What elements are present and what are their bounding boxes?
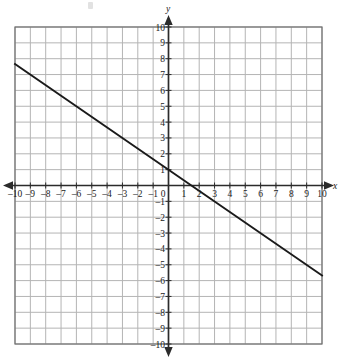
y-axis-label: y [165, 4, 171, 14]
y-tick-label: –4 [155, 244, 166, 254]
x-axis-label: x [332, 181, 338, 191]
scan-artifact [88, 2, 93, 9]
x-tick-label: –9 [25, 189, 36, 199]
x-tick-label: –10 [7, 189, 23, 199]
y-tick-label: 2 [160, 149, 165, 159]
x-tick-label: 10 [317, 189, 327, 199]
y-tick-label: –5 [155, 260, 166, 270]
y-axis-bottom-arrow [164, 347, 172, 357]
y-tick-label: –3 [155, 229, 166, 239]
x-tick-label: 3 [212, 189, 217, 199]
x-tick-label: 8 [289, 189, 294, 199]
coordinate-plane-figure: –10 –9 –8 –7 –6 –5 –4 –3 –2 –1 1 2 3 4 5… [0, 0, 340, 358]
y-tick-label: 6 [160, 86, 165, 96]
x-tick-label: –8 [40, 189, 51, 199]
y-tick-label: 9 [160, 38, 165, 48]
x-tick-label: –7 [55, 189, 66, 199]
y-tick-label: 8 [160, 54, 165, 64]
x-tick-label: –2 [132, 189, 143, 199]
x-tick-label: 5 [243, 189, 248, 199]
y-tick-label: –7 [155, 292, 166, 302]
x-tick-label: –6 [71, 189, 82, 199]
y-tick-label: 10 [156, 23, 166, 33]
x-tick-label: –4 [101, 189, 112, 199]
y-tick-label: –10 [150, 340, 166, 350]
x-tick-label: 7 [274, 189, 279, 199]
x-tick-label: 1 [181, 189, 186, 199]
y-tick-label: –1 [155, 197, 166, 207]
x-tick-label: 4 [228, 189, 233, 199]
x-tick-label: –3 [117, 189, 128, 199]
y-tick-label: –8 [155, 308, 166, 318]
y-tick-label: –9 [155, 324, 166, 334]
x-tick-label: 9 [304, 189, 309, 199]
x-tick-label: 6 [258, 189, 263, 199]
y-tick-label: 7 [160, 70, 165, 80]
y-axis-top-arrow [164, 15, 172, 25]
y-tick-label: 4 [160, 118, 165, 128]
y-tick-label: 5 [160, 102, 165, 112]
y-tick-label: –2 [155, 213, 166, 223]
graph-canvas: –10 –9 –8 –7 –6 –5 –4 –3 –2 –1 1 2 3 4 5… [0, 0, 340, 358]
y-tick-label: 3 [160, 133, 165, 143]
x-tick-label: –5 [86, 189, 97, 199]
y-tick-label: –6 [155, 276, 166, 286]
